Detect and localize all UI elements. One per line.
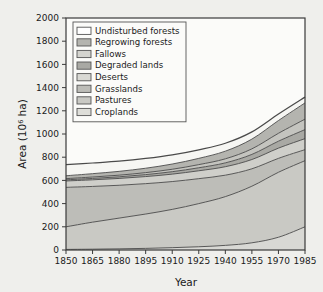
legend-swatch bbox=[77, 97, 91, 104]
legend-label: Fallows bbox=[95, 49, 126, 59]
legend-label: Degraded lands bbox=[95, 60, 164, 70]
legend-label: Undisturbed forests bbox=[95, 26, 180, 36]
y-tick-label: 0 bbox=[53, 245, 59, 255]
legend-swatch bbox=[77, 62, 91, 69]
y-tick-label: 1800 bbox=[36, 36, 59, 46]
y-title-base: Area (10 bbox=[16, 124, 28, 169]
y-tick-label: 1000 bbox=[36, 129, 59, 139]
legend-label: Grasslands bbox=[95, 84, 143, 94]
legend-swatch bbox=[77, 74, 91, 81]
legend-label: Pastures bbox=[95, 95, 132, 105]
x-tick-label: 1970 bbox=[267, 256, 290, 266]
y-tick-label: 1200 bbox=[36, 106, 59, 116]
y-tick-label: 1600 bbox=[36, 60, 59, 70]
y-title-tail: ha) bbox=[16, 99, 28, 120]
legend-swatch bbox=[77, 108, 91, 115]
y-tick-label: 2000 bbox=[36, 13, 59, 23]
x-tick-label: 1850 bbox=[55, 256, 78, 266]
legend-swatch bbox=[77, 39, 91, 46]
x-tick-label: 1985 bbox=[294, 256, 317, 266]
y-tick-label: 1400 bbox=[36, 83, 59, 93]
x-axis-title: Year bbox=[174, 276, 198, 288]
y-tick-label: 200 bbox=[42, 222, 59, 232]
x-tick-label: 1865 bbox=[81, 256, 104, 266]
y-tick-label: 600 bbox=[42, 176, 59, 186]
legend-label: Regrowing forests bbox=[95, 37, 173, 47]
chart-legend: Undisturbed forestsRegrowing forestsFall… bbox=[73, 22, 186, 122]
x-tick-label: 1895 bbox=[134, 256, 157, 266]
x-tick-label: 1910 bbox=[161, 256, 184, 266]
chart-figure: 0200400600800100012001400160018002000 18… bbox=[0, 0, 323, 292]
x-tick-label: 1880 bbox=[108, 256, 131, 266]
legend-swatch bbox=[77, 85, 91, 92]
x-tick-label: 1925 bbox=[187, 256, 210, 266]
legend-swatch bbox=[77, 27, 91, 34]
stacked-area-chart: 0200400600800100012001400160018002000 18… bbox=[0, 0, 323, 292]
x-tick-label: 1940 bbox=[214, 256, 237, 266]
y-tick-label: 400 bbox=[42, 199, 59, 209]
y-axis-title: Area (106 ha) bbox=[16, 99, 28, 169]
legend-label: Deserts bbox=[95, 72, 129, 82]
y-tick-label: 800 bbox=[42, 152, 59, 162]
x-tick-label: 1955 bbox=[240, 256, 263, 266]
legend-label: Croplands bbox=[95, 107, 139, 117]
legend-swatch bbox=[77, 50, 91, 57]
